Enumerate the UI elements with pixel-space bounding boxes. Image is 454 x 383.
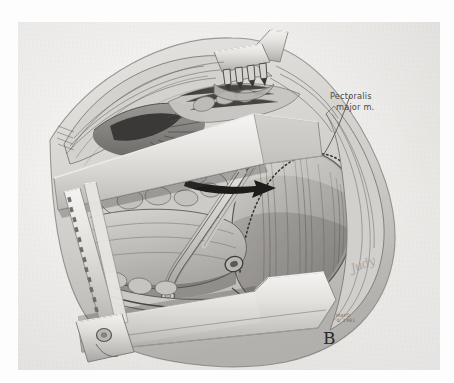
illustration-plate: Pectoralis major m. MAYO © 1981 Judy B xyxy=(18,22,440,370)
publisher-credit: MAYO © 1981 xyxy=(336,313,356,324)
credit-line1: MAYO xyxy=(336,313,350,318)
screenshot-root: Pectoralis major m. MAYO © 1981 Judy B xyxy=(0,0,454,383)
panel-label-b: B xyxy=(323,328,336,348)
label-pectoralis-line1: Pectoralis xyxy=(330,91,372,101)
surgical-illustration-artwork xyxy=(18,22,440,370)
credit-line2: © 1981 xyxy=(336,318,356,323)
label-pectoralis-line2: major m. xyxy=(330,102,374,113)
label-pectoralis-major: Pectoralis major m. xyxy=(330,91,374,112)
